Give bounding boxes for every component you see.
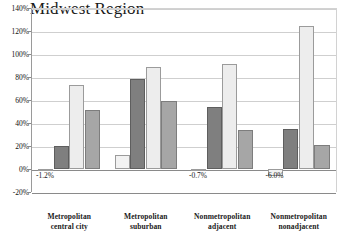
- y-axis-tick-mark: [27, 192, 31, 193]
- y-axis-tick-label: 20%: [0, 142, 31, 151]
- y-axis-tick-label: 100%: [0, 50, 31, 59]
- bar: [161, 101, 176, 169]
- bar: [222, 64, 237, 169]
- bar: [207, 107, 222, 169]
- category-label-line2: adjacent: [184, 222, 261, 232]
- x-axis-category-label: Metropolitansuburban: [108, 212, 185, 232]
- y-axis-tick-label: -20%: [0, 188, 31, 197]
- category-label-line1: Metropolitan: [124, 212, 168, 221]
- category-label-line2: nonadjacent: [261, 222, 338, 232]
- bar: [115, 155, 130, 169]
- bar: [238, 130, 253, 169]
- x-axis-category-labels: Metropolitancentral cityMetropolitansubu…: [31, 212, 337, 236]
- value-label: -0.7%: [189, 171, 207, 180]
- bar: [299, 26, 314, 169]
- x-axis-category-label: Metropolitancentral city: [31, 212, 108, 232]
- y-axis-tick-label: 120%: [0, 27, 31, 36]
- bar: [85, 110, 100, 169]
- value-label: -1.2%: [36, 171, 54, 180]
- y-axis-tick-label: 140%: [0, 4, 31, 13]
- bar: [283, 129, 298, 169]
- bar: [130, 79, 145, 169]
- y-axis-tick-label: 60%: [0, 96, 31, 105]
- y-axis-tick-label: 80%: [0, 73, 31, 82]
- bar-group: [31, 8, 337, 192]
- bar: [146, 67, 161, 169]
- y-axis-tick-label: 40%: [0, 119, 31, 128]
- bar: [54, 146, 69, 169]
- value-label: -6.0%: [266, 171, 284, 180]
- x-axis-category-label: Nonmetropolitanadjacent: [184, 212, 261, 232]
- category-label-line1: Metropolitan: [47, 212, 91, 221]
- y-axis-tick-label: 0%: [0, 165, 31, 174]
- category-label-line1: Nonmetropolitan: [271, 212, 327, 221]
- category-label-line1: Nonmetropolitan: [194, 212, 250, 221]
- gridline: [32, 193, 336, 194]
- chart-container: Midwest Region 140%120%100%80%60%40%20%0…: [0, 0, 343, 236]
- category-label-line2: suburban: [108, 222, 185, 232]
- category-label-line2: central city: [31, 222, 108, 232]
- x-axis-category-label: Nonmetropolitannonadjacent: [261, 212, 338, 232]
- bar: [314, 145, 329, 169]
- bar: [69, 85, 84, 169]
